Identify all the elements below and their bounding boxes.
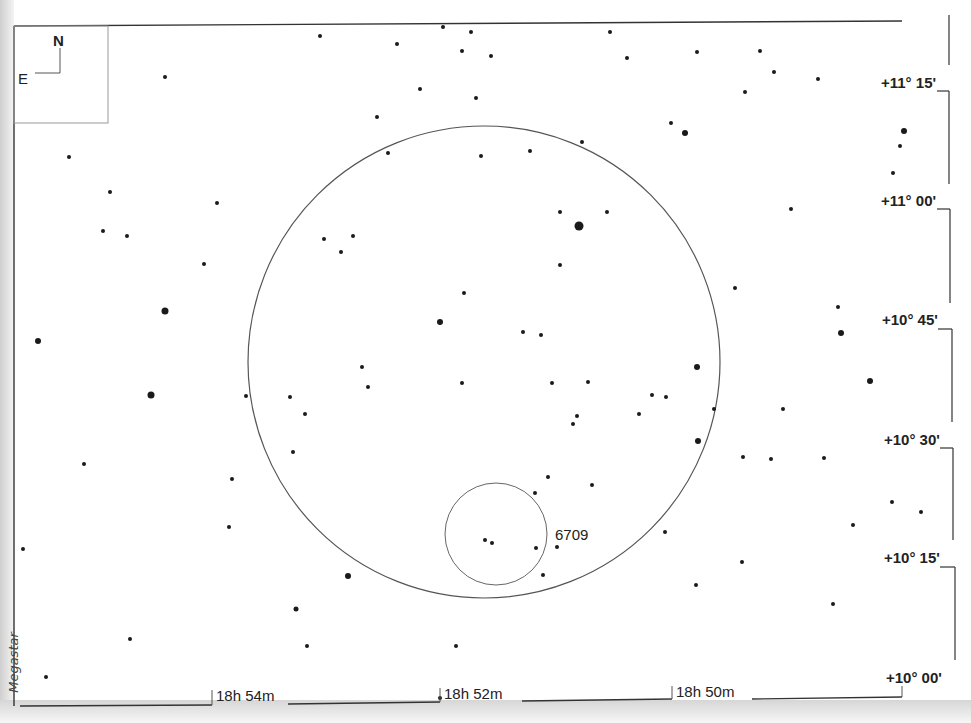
star	[395, 42, 399, 46]
star	[294, 607, 299, 612]
star	[386, 151, 390, 155]
star	[546, 475, 550, 479]
star	[712, 407, 716, 411]
ra-label: 18h 50m	[676, 683, 734, 700]
star	[772, 70, 776, 74]
star	[534, 546, 538, 550]
star	[836, 305, 840, 309]
dec-label: +10° 30'	[884, 431, 940, 448]
star	[669, 121, 673, 125]
dec-label: +10° 15'	[884, 549, 940, 566]
frame-top	[14, 21, 902, 26]
star	[474, 96, 478, 100]
star	[555, 545, 559, 549]
star	[303, 412, 307, 416]
star	[733, 286, 737, 290]
star	[541, 573, 545, 577]
star	[608, 30, 612, 34]
star	[575, 414, 579, 418]
star	[571, 422, 575, 426]
star	[366, 385, 370, 389]
star	[339, 250, 343, 254]
star	[82, 462, 86, 466]
star	[605, 210, 609, 214]
star	[550, 381, 554, 385]
star	[625, 56, 629, 60]
star	[694, 364, 700, 370]
frame-bottom-1	[20, 705, 212, 706]
star	[919, 510, 923, 514]
star	[108, 190, 112, 194]
star	[694, 583, 698, 587]
star	[890, 500, 894, 504]
star	[822, 456, 826, 460]
star	[580, 140, 584, 144]
star	[128, 637, 132, 641]
star	[460, 49, 464, 53]
star	[125, 234, 129, 238]
star	[590, 483, 594, 487]
star	[867, 378, 873, 384]
star	[695, 438, 701, 444]
frame-bottom-2	[288, 702, 440, 704]
compass-east-label: E	[18, 70, 28, 87]
star	[682, 130, 688, 136]
star	[663, 530, 667, 534]
star	[789, 207, 793, 211]
star-chart: N E 6709 +11° 15' +11° 00' +10° 45' +10°…	[0, 0, 971, 723]
star	[898, 144, 902, 148]
star	[558, 210, 562, 214]
star	[244, 394, 248, 398]
star	[740, 560, 744, 564]
star	[162, 308, 169, 315]
star	[743, 90, 747, 94]
credit-label: Megastar	[6, 628, 21, 698]
star	[741, 455, 745, 459]
star	[816, 77, 820, 81]
star	[460, 381, 464, 385]
star	[360, 365, 364, 369]
star	[441, 25, 445, 29]
star	[291, 450, 295, 454]
star	[483, 538, 487, 542]
star	[901, 128, 907, 134]
star	[891, 171, 895, 175]
star	[21, 547, 25, 551]
star	[490, 541, 494, 545]
star	[650, 393, 654, 397]
star	[227, 525, 231, 529]
compass-north-label: N	[53, 32, 64, 49]
star	[202, 262, 206, 266]
star	[418, 87, 422, 91]
star	[230, 477, 234, 481]
dec-label: +10° 00'	[886, 669, 942, 686]
star	[489, 54, 493, 58]
star	[305, 644, 309, 648]
star	[831, 602, 835, 606]
star	[67, 155, 71, 159]
star	[148, 392, 155, 399]
star	[769, 457, 773, 461]
star	[351, 234, 355, 238]
dec-label: +11° 15'	[881, 74, 936, 91]
star	[533, 491, 537, 495]
star	[539, 333, 543, 337]
star	[637, 412, 641, 416]
star	[528, 149, 532, 153]
star	[479, 154, 483, 158]
star	[288, 395, 292, 399]
star	[586, 380, 590, 384]
dec-label: +10° 45'	[882, 311, 938, 328]
star	[781, 407, 785, 411]
star	[375, 115, 379, 119]
star	[215, 201, 219, 205]
star	[664, 395, 668, 399]
ngc6709-label: 6709	[555, 526, 588, 543]
star	[462, 291, 466, 295]
star	[35, 338, 41, 344]
ra-label: 18h 52m	[444, 685, 502, 702]
star	[469, 30, 473, 34]
star	[454, 644, 458, 648]
star	[758, 49, 762, 53]
star	[695, 50, 699, 54]
